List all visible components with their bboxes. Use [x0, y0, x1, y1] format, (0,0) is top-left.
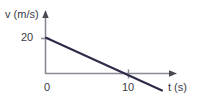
y-axis-label: v (m/s) — [5, 9, 39, 20]
origin-label: 0 — [44, 82, 50, 93]
y-axis-tick-label-20: 20 — [21, 32, 33, 43]
y-axis-arrowhead-icon — [42, 10, 48, 18]
x-axis-tick-label-10: 10 — [122, 82, 134, 93]
x-axis-label: t (s) — [168, 82, 187, 93]
x-axis-arrowhead-icon — [169, 70, 177, 76]
velocity-time-graph-figure: v (m/s) t (s) 0 20 10 — [0, 0, 198, 102]
velocity-data-line — [46, 38, 162, 91]
